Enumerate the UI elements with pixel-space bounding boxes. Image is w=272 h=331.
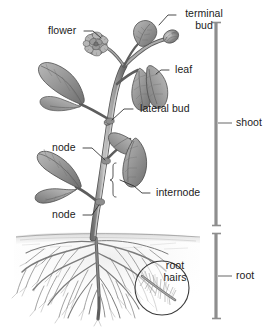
bracket-shoot [212, 22, 232, 226]
label-node-upper: node [52, 142, 76, 154]
label-terminal-bud-line2: bud [173, 20, 235, 32]
label-internode: internode [156, 187, 200, 199]
label-leaf: leaf [175, 64, 192, 76]
label-root-hairs-line1: root [152, 260, 198, 272]
plant-illustration [0, 0, 272, 331]
leader-lateral-bud [112, 109, 133, 120]
internode-brace [110, 163, 116, 197]
label-node-lower: node [52, 209, 76, 221]
label-root: root [236, 270, 254, 282]
label-terminal-bud-line1: terminal [173, 8, 235, 20]
label-shoot: shoot [236, 117, 262, 129]
flower [83, 31, 124, 66]
leaf-left-lower [35, 149, 99, 203]
label-flower: flower [48, 25, 76, 37]
plant-anatomy-figure: flower terminal bud leaf lateral bud nod… [0, 0, 272, 331]
label-root-hairs-line2: hairs [152, 272, 198, 284]
label-lateral-bud: lateral bud [140, 103, 190, 115]
bracket-root [212, 233, 232, 319]
brackets [212, 22, 232, 319]
leaf-left-upper [38, 63, 110, 120]
